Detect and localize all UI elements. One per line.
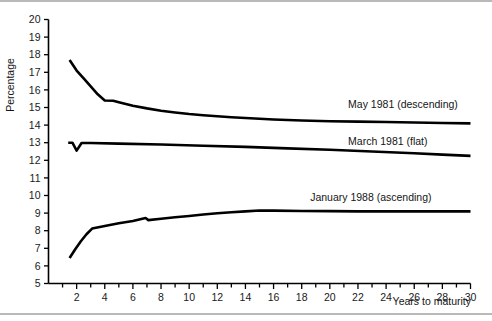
y-tick-label: 20 xyxy=(29,13,41,25)
y-tick-label: 7 xyxy=(35,242,41,254)
y-tick-label: 13 xyxy=(29,136,41,148)
y-tick-label: 12 xyxy=(29,154,41,166)
x-tick-label: 24 xyxy=(380,291,392,303)
y-tick-label: 10 xyxy=(29,189,41,201)
y-tick-label: 15 xyxy=(29,101,41,113)
x-tick-label: 2 xyxy=(74,291,80,303)
x-tick-label: 20 xyxy=(324,291,336,303)
y-tick-label: 19 xyxy=(29,31,41,43)
series-curves xyxy=(68,60,470,258)
y-tick-label: 16 xyxy=(29,84,41,96)
x-tick-label: 8 xyxy=(158,291,164,303)
x-tick-label: 18 xyxy=(296,291,308,303)
x-tick-label: 4 xyxy=(102,291,108,303)
x-tick-label: 14 xyxy=(240,291,252,303)
y-tick-label: 17 xyxy=(29,66,41,78)
y-tick-label: 18 xyxy=(29,48,41,60)
series-label-ascending: January 1988 (ascending) xyxy=(310,191,431,203)
y-tick-label: 9 xyxy=(35,207,41,219)
series-label-descending: May 1981 (descending) xyxy=(348,98,458,110)
x-axis-title: Years to maturity xyxy=(393,295,472,307)
y-tick-label: 8 xyxy=(35,224,41,236)
y-axis-title: Percentage xyxy=(4,58,16,112)
y-tick-label: 11 xyxy=(30,172,41,184)
y-tick-label: 6 xyxy=(35,260,41,272)
y-axis: 567891011121314151617181920 xyxy=(29,13,49,289)
x-tick-label: 10 xyxy=(183,291,195,303)
y-tick-label: 14 xyxy=(29,119,41,131)
x-tick-label: 22 xyxy=(352,291,364,303)
y-tick-label: 5 xyxy=(35,277,41,289)
series-line-ascending xyxy=(70,210,471,258)
x-tick-label: 6 xyxy=(130,291,136,303)
series-line-descending xyxy=(70,60,471,123)
yield-curve-plot: 567891011121314151617181920 246810121416… xyxy=(0,0,492,321)
chart-figure: 567891011121314151617181920 246810121416… xyxy=(0,0,492,321)
series-label-flat: March 1981 (flat) xyxy=(348,135,427,147)
x-tick-label: 16 xyxy=(268,291,280,303)
x-tick-label: 12 xyxy=(211,291,223,303)
